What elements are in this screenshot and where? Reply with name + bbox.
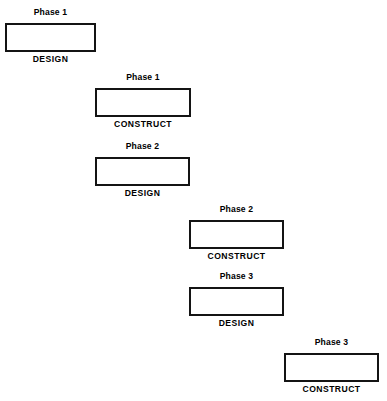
activity-label-phase-1-construct: CONSTRUCT: [95, 120, 191, 129]
phase-label-phase-2-design: Phase 2: [95, 142, 190, 151]
activity-label-phase-1-design: DESIGN: [5, 55, 96, 64]
activity-bar-phase-3-design[interactable]: [189, 287, 284, 316]
activity-label-phase-3-design: DESIGN: [189, 319, 284, 328]
activity-bar-phase-2-construct[interactable]: [189, 220, 284, 249]
phased-schedule-diagram: Phase 1 DESIGN Phase 1 CONSTRUCT Phase 2…: [0, 0, 387, 401]
activity-bar-phase-3-construct[interactable]: [284, 353, 379, 382]
activity-bar-phase-1-construct[interactable]: [95, 88, 191, 117]
phase-label-phase-3-design: Phase 3: [189, 272, 284, 281]
phase-label-phase-1-construct: Phase 1: [95, 73, 191, 82]
phase-label-phase-2-construct: Phase 2: [189, 205, 284, 214]
activity-label-phase-3-construct: CONSTRUCT: [284, 385, 379, 394]
activity-bar-phase-1-design[interactable]: [5, 23, 96, 52]
activity-label-phase-2-construct: CONSTRUCT: [189, 252, 284, 261]
activity-label-phase-2-design: DESIGN: [95, 189, 190, 198]
phase-label-phase-1-design: Phase 1: [5, 8, 96, 17]
phase-label-phase-3-construct: Phase 3: [284, 338, 379, 347]
activity-bar-phase-2-design[interactable]: [95, 157, 190, 186]
